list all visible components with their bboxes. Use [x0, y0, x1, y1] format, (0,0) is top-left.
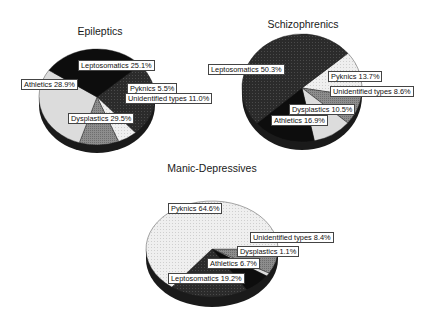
slice-label-dysplastics: Dysplastics 1.1% — [237, 246, 299, 257]
chart-title-manic-depressives: Manic-Depressives — [167, 162, 256, 174]
slice-label-leptosomatics: Leptosomatics 50.3% — [208, 64, 285, 75]
pie-charts-canvas — [0, 0, 427, 320]
slice-label-pyknics: Pyknics 64.6% — [168, 203, 222, 214]
slice-label-leptosomatics: Leptosomatics 19.2% — [168, 273, 245, 284]
slice-label-unidentified-types: Unidentified types 8.4% — [250, 232, 334, 243]
slice-label-leptosomatics: Leptosomatics 25.1% — [78, 60, 155, 71]
slice-label-unidentified-types: Unidentified types 8.6% — [330, 86, 414, 97]
slice-label-pyknics: Pyknics 13.7% — [328, 71, 382, 82]
slice-label-athletics: Athletics 6.7% — [207, 258, 260, 269]
slice-label-dysplastics: Dysplastics 29.5% — [68, 113, 134, 124]
chart-title-epileptics: Epileptics — [78, 25, 123, 37]
slice-label-unidentified-types: Unidentified types 11.0% — [125, 93, 212, 104]
slice-label-athletics: Athletics 16.9% — [271, 115, 328, 126]
chart-title-schizophrenics: Schizophrenics — [267, 18, 338, 30]
slice-label-athletics: Athletics 28.9% — [21, 79, 78, 90]
slice-label-dysplastics: Dysplastics 10.5% — [289, 104, 355, 115]
